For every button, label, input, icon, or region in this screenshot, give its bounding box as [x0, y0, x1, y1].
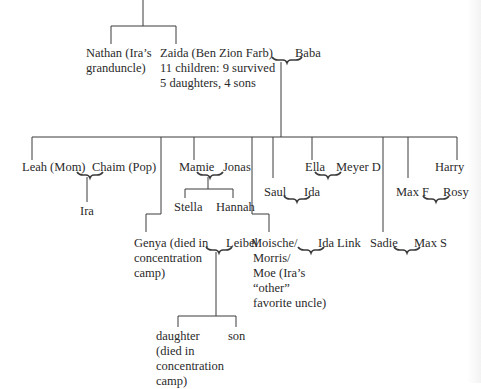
zaida-name: Zaida (Ben Zion Farb) — [160, 46, 275, 61]
nathan-name: Nathan (Ira’s — [86, 46, 152, 61]
daughter-line-2: (died in — [156, 344, 236, 359]
person-hannah: Hannah — [216, 200, 255, 215]
person-zaida: Zaida (Ben Zion Farb) 11 children: 9 sur… — [160, 46, 275, 91]
person-mamie: Mamie — [179, 160, 214, 175]
daughter-line-4: camp) — [156, 374, 236, 389]
genya-line-2: concentration — [134, 251, 214, 266]
moische-line-3: Moe (Ira’s — [251, 266, 331, 281]
moische-line-4: “other” — [251, 281, 331, 296]
person-max-s: Max S — [414, 236, 447, 251]
daughter-line-3: concentration — [156, 359, 236, 374]
person-genya: Genya (died in concentration camp) — [134, 236, 214, 281]
person-max-f: Max F — [396, 185, 429, 200]
person-saul: Saul — [264, 185, 286, 200]
zaida-sons-daughters-note: 5 daughters, 4 sons — [160, 76, 275, 91]
genya-line-3: camp) — [134, 266, 214, 281]
person-jonas: Jonas — [223, 160, 251, 175]
person-chaim: Chaim (Pop) — [92, 160, 156, 175]
person-baba: Baba — [295, 46, 321, 61]
person-son: son — [228, 329, 245, 344]
moische-line-2: Morris/ — [251, 251, 331, 266]
person-ira: Ira — [80, 204, 94, 219]
person-leah: Leah (Mom) — [22, 160, 86, 175]
genya-line-1: Genya (died in — [134, 236, 214, 251]
person-sadie: Sadie — [370, 236, 398, 251]
nathan-relation: granduncle) — [86, 61, 152, 76]
moische-line-5: favorite uncle) — [251, 296, 331, 311]
zaida-children-note: 11 children: 9 survived — [160, 61, 275, 76]
person-ida-link: Ida Link — [318, 236, 361, 251]
person-harry: Harry — [435, 160, 464, 175]
person-stella: Stella — [174, 200, 202, 215]
person-meyer-d: Meyer D — [336, 160, 381, 175]
person-ella: Ella — [305, 160, 325, 175]
person-daughter: daughter (died in concentration camp) — [156, 329, 236, 389]
person-ida: Ida — [304, 185, 320, 200]
person-rosy: Rosy — [443, 185, 469, 200]
daughter-line-1: daughter — [156, 329, 236, 344]
person-nathan: Nathan (Ira’s granduncle) — [86, 46, 152, 76]
